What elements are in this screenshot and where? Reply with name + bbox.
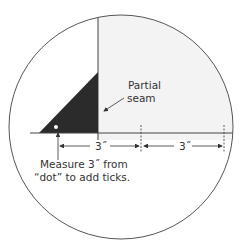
dark-triangle xyxy=(39,72,98,133)
dot-marker xyxy=(54,125,58,129)
measure-label-line1: Measure 3˝ from xyxy=(40,158,128,170)
seam-diagram: Partial seam 3˝ 3˝ Measure 3˝ from “dot”… xyxy=(0,0,243,252)
measure-label-line2: “dot” to add ticks. xyxy=(34,171,130,183)
dimension-label-2: 3˝ xyxy=(179,140,191,152)
partial-seam-label-line1: Partial xyxy=(128,79,161,91)
dimension-label-1: 3˝ xyxy=(95,140,107,152)
diagram-graphic xyxy=(0,0,243,252)
fabric-panel xyxy=(98,0,243,140)
partial-seam-label-line2: seam xyxy=(127,92,156,104)
